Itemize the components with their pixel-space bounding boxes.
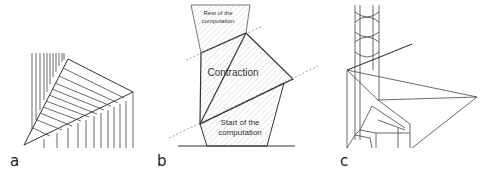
computation-diagram-b: Rest of the computation Contraction Star…	[160, 0, 330, 176]
panel-label-b: b	[157, 152, 167, 170]
panel-label-c: c	[340, 152, 348, 170]
start-label-1: Start of the	[220, 118, 260, 127]
contraction-label: Contraction	[207, 67, 258, 78]
panel-b: Rest of the computation Contraction Star…	[160, 0, 330, 176]
panel-a: a	[0, 0, 160, 176]
rest-label-1: Rest of the	[203, 10, 233, 16]
rest-label-2: computation	[202, 18, 235, 24]
start-label-2: computation	[218, 128, 262, 137]
panel-c: c	[320, 0, 491, 176]
folding-diagram-a	[0, 0, 160, 176]
panel-label-a: a	[10, 152, 19, 170]
folding-diagram-c	[320, 0, 491, 176]
